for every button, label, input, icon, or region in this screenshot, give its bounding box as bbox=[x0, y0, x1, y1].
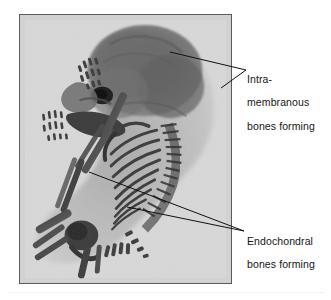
film-grain bbox=[20, 15, 231, 283]
bottom-rule bbox=[8, 292, 324, 293]
figure-root: Intra- membranous bones forming Endochon… bbox=[0, 0, 331, 300]
label-endochondral: Endochondral bones forming bbox=[247, 224, 329, 283]
skeleton-photo-canvas bbox=[20, 15, 231, 283]
label-intramembranous-line-2: membranous bbox=[247, 97, 329, 109]
label-intramembranous-line-3: bones forming bbox=[247, 121, 329, 133]
label-endochondral-line-1: Endochondral bbox=[247, 236, 329, 248]
label-intramembranous-line-1: Intra- bbox=[247, 74, 329, 86]
skeleton-photograph bbox=[19, 14, 232, 284]
label-intramembranous: Intra- membranous bones forming bbox=[247, 62, 329, 145]
label-endochondral-line-2: bones forming bbox=[247, 259, 329, 271]
